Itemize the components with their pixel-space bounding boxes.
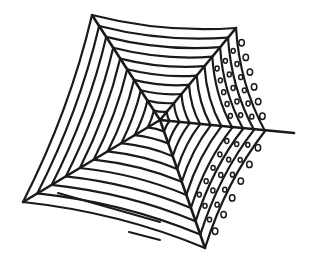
dew-drop <box>238 157 242 162</box>
dew-drop <box>229 195 234 201</box>
dew-drop <box>225 139 229 144</box>
web-ring-5 <box>197 76 211 126</box>
web-loose-strand-2 <box>129 232 160 240</box>
dew-drop <box>227 72 231 77</box>
dew-drop <box>215 66 219 71</box>
dew-drop <box>239 40 244 46</box>
web-ring-3 <box>141 90 182 94</box>
dew-drop <box>218 152 222 157</box>
web-ring-2 <box>135 135 169 144</box>
web-ring-3 <box>182 94 190 123</box>
dew-drop <box>223 187 227 192</box>
dew-drop <box>211 188 215 193</box>
dew-drop <box>223 58 227 63</box>
dew-drop <box>251 84 256 90</box>
dew-drop <box>218 78 222 83</box>
dew-drop <box>235 62 239 67</box>
dew-drop <box>235 142 239 147</box>
dew-drop <box>238 178 243 184</box>
web-radial-bottom <box>160 120 205 248</box>
dew-drop <box>203 203 207 208</box>
dew-drop <box>227 157 231 162</box>
dew-drop <box>239 75 243 80</box>
dew-drop <box>247 69 252 75</box>
dew-drop <box>255 98 260 104</box>
dew-drop <box>228 113 232 118</box>
spider-web-icon <box>0 0 313 269</box>
dew-drop <box>231 48 235 53</box>
dew-drop <box>212 228 217 234</box>
dew-drop <box>211 165 215 170</box>
dew-drop <box>246 101 250 106</box>
dew-drop <box>242 88 246 93</box>
dew-drop <box>197 192 201 197</box>
web-ring-5 <box>182 125 211 182</box>
dew-drop <box>219 173 223 178</box>
dew-drop <box>243 54 248 60</box>
web-ring-7 <box>113 48 212 58</box>
dew-drop <box>221 211 226 217</box>
dew-drop <box>255 145 260 151</box>
web-ring-1 <box>164 121 169 131</box>
web-ring-10 <box>92 15 236 29</box>
dew-drop <box>215 202 219 207</box>
web-ring-7 <box>66 176 191 208</box>
dew-drop <box>222 90 226 95</box>
dew-drop <box>207 217 211 222</box>
web-ring-2 <box>148 101 175 104</box>
web-ring-4 <box>134 80 189 85</box>
spider-web-illustration: Hand-drawn spider web with dew drops <box>0 0 313 269</box>
dew-drop <box>250 114 254 119</box>
dew-drop <box>235 99 239 104</box>
dew-drop <box>230 172 234 177</box>
dew-drop <box>247 161 252 167</box>
dew-drop <box>239 113 243 118</box>
web-ring-8 <box>52 37 107 185</box>
web-radial-top-left <box>92 15 160 120</box>
web-ring-5 <box>127 69 197 76</box>
dew-drop <box>225 102 229 107</box>
dew-drop <box>231 86 235 91</box>
dew-drop <box>204 179 208 184</box>
web-ring-6 <box>120 59 204 67</box>
web-ring-1 <box>154 111 167 112</box>
dew-drop <box>260 113 265 119</box>
dew-drop <box>246 142 250 147</box>
web-ring-2 <box>174 103 179 122</box>
